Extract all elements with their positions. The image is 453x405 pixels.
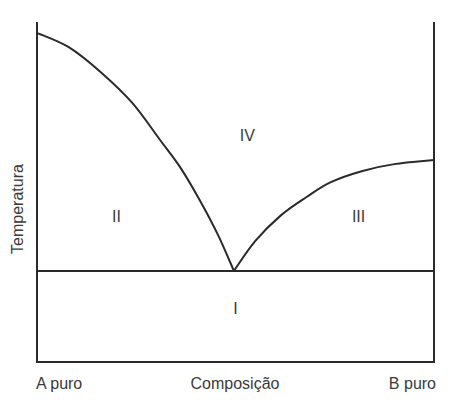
liquidus-B-curve <box>234 160 434 271</box>
liquidus-A-curve <box>37 33 234 271</box>
region-label-iv: IV <box>240 127 255 144</box>
region-label-i: I <box>233 300 237 317</box>
phase-diagram: IVIIIIII A puro Composição B puro Temper… <box>0 0 453 405</box>
y-axis-label: Temperatura <box>9 164 26 254</box>
region-labels: IVIIIIII <box>112 127 365 317</box>
region-label-iii: III <box>352 208 365 225</box>
x-axis-label: Composição <box>191 375 280 392</box>
x-tick-label-b-puro: B puro <box>389 375 436 392</box>
phase-curves <box>37 33 434 271</box>
x-tick-label-a-puro: A puro <box>36 375 82 392</box>
region-label-ii: II <box>112 208 121 225</box>
